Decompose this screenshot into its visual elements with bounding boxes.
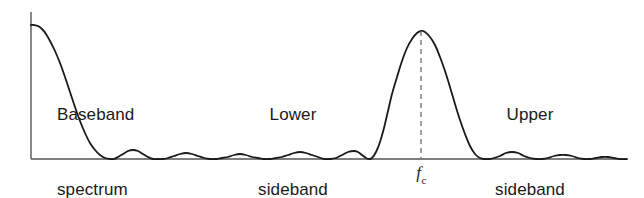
annotation-lower-line1: Lower: [243, 102, 343, 127]
x-axis-tick-label-carrier-frequency: fc: [398, 163, 444, 184]
annotation-lower-line2: sideband: [243, 177, 343, 198]
annotation-baseband-line1: Baseband: [57, 102, 134, 127]
annotation-upper-line1: Upper: [478, 102, 582, 127]
spectrum-figure: Baseband spectrum Lower sideband Upper s…: [0, 0, 644, 198]
carrier-frequency-subscript: c: [421, 174, 426, 186]
annotation-upper-sideband: Upper sideband: [478, 52, 582, 198]
annotation-upper-line2: sideband: [478, 177, 582, 198]
annotation-baseband-line2: spectrum: [57, 177, 134, 198]
annotation-baseband-spectrum: Baseband spectrum: [57, 52, 134, 198]
annotation-lower-sideband: Lower sideband: [243, 52, 343, 198]
